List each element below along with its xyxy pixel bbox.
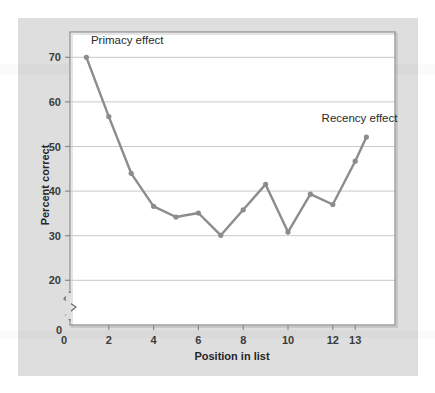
x-axis-tick-label: 10 [282,334,294,346]
y-axis-title: Percent correct [39,144,51,225]
y-axis-tick-label: 60 [49,96,61,108]
data-point-marker [196,210,201,215]
data-point-marker [84,55,89,60]
x-axis-tick-label: 13 [349,334,361,346]
x-axis-title: Position in list [194,350,270,362]
x-axis-tick-label: 2 [106,334,112,346]
data-point-marker [129,171,134,176]
figure-container: 203040506070 02468101213 Position in lis… [0,0,435,393]
y-axis-tick-label: 20 [49,274,61,286]
data-point-marker [308,192,313,197]
y-axis-origin-label: 0 [56,324,62,336]
data-point-marker [241,207,246,212]
data-point-marker [263,182,268,187]
x-axis-tick-labels: 02468101213 [61,334,361,346]
data-point-marker [353,159,358,164]
x-axis-tick-label: 12 [327,334,339,346]
chart-annotation-label: Primacy effect [91,34,164,46]
y-axis-tick-label: 30 [49,230,61,242]
data-point-marker [330,202,335,207]
data-point-marker [285,230,290,235]
x-axis-tick-label: 4 [151,334,158,346]
y-axis-tick-label: 70 [49,51,61,63]
chart-annotation-label: Recency effect [322,112,399,124]
plot-area: 203040506070 02468101213 Position in lis… [0,0,435,393]
x-axis-tick-label: 6 [195,334,201,346]
data-point-marker [364,135,369,140]
x-axis-tick-label: 8 [240,334,246,346]
y-axis-ticks [65,57,70,280]
data-point-marker [106,114,111,119]
data-point-marker [173,214,178,219]
serial-position-curve-chart: 203040506070 02468101213 Position in lis… [0,0,435,393]
data-point-marker [218,233,223,238]
data-point-marker [151,204,156,209]
